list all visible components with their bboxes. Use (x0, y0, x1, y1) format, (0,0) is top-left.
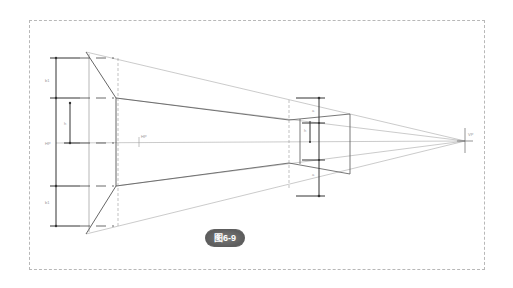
label-horizon-left: HP (45, 141, 51, 146)
label-dim-top: b1 (45, 78, 50, 83)
left-extension-lines (80, 58, 114, 226)
label-right-dim-inner: h (304, 128, 306, 133)
label-vanishing-point: VP (468, 132, 474, 137)
label-dim-inner: h (64, 121, 66, 126)
figure-caption-badge: 图6-9 (205, 229, 245, 247)
convergence-lines (56, 52, 465, 234)
left-dim-ticks (55, 57, 71, 227)
perspective-drawing: b1 h HP b1 HP a h a VP (0, 0, 513, 288)
label-right-dim-bottom: a (312, 172, 315, 177)
left-dimension (50, 58, 80, 226)
label-right-dim-top: a (312, 108, 315, 113)
label-horizon-center: HP (141, 134, 147, 139)
label-dim-bottom: b1 (45, 200, 50, 205)
